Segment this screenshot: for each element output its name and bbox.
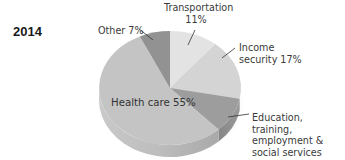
label-edu-line1: Education, training, [252, 112, 345, 135]
label-income-security: Income security 17% [239, 42, 302, 65]
label-edu-line3: social services 10% [252, 147, 345, 160]
label-transportation: Transportation 11% [164, 2, 228, 25]
label-education: Education, training, employment & social… [252, 112, 345, 159]
label-other: Other 7% [98, 25, 144, 37]
label-income-line1: Income [239, 42, 302, 54]
label-edu-line2: employment & [252, 135, 345, 147]
label-income-line2: security 17% [239, 54, 302, 66]
label-transportation-name: Transportation [164, 2, 228, 14]
label-health-care: Health care 55% [111, 97, 196, 109]
label-transportation-pct: 11% [164, 14, 228, 26]
